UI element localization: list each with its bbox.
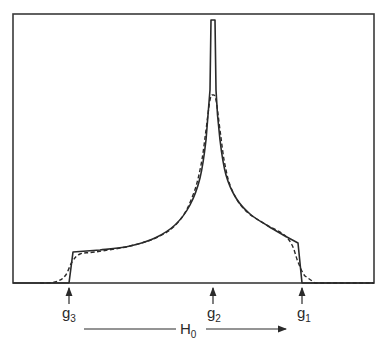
field-axis-label: H0 <box>180 321 196 340</box>
g2-label: g2 <box>207 305 221 324</box>
plot-frame <box>13 14 374 283</box>
spectrum-figure <box>0 0 382 347</box>
g1-label: g1 <box>297 305 311 324</box>
ideal-spectrum-solid <box>13 20 374 283</box>
g-marker-arrows <box>69 288 302 304</box>
g3-label: g3 <box>62 305 76 324</box>
